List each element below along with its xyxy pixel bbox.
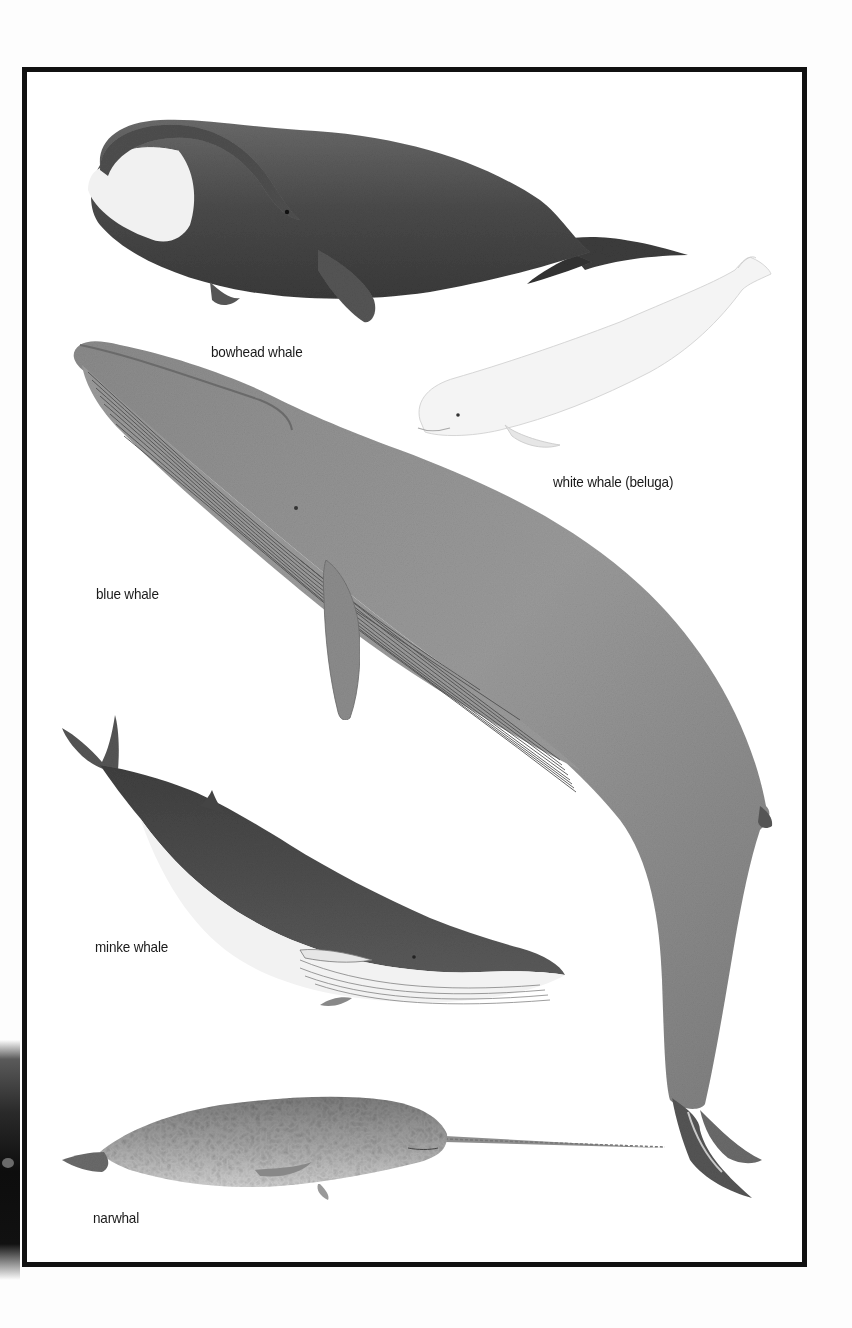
label-blue-whale: blue whale [96,585,159,602]
label-white-whale-beluga: white whale (beluga) [553,473,673,490]
bowhead-whale [88,120,688,323]
minke-whale [62,715,565,1006]
whale-illustrations [0,0,852,1328]
label-bowhead-whale: bowhead whale [211,343,302,360]
label-minke-whale: minke whale [95,938,168,955]
book-page: bowhead whale white whale (beluga) blue … [0,0,852,1328]
beluga-whale [418,257,771,447]
label-narwhal: narwhal [93,1209,139,1226]
blue-whale [74,341,772,1198]
narwhal [62,1097,665,1200]
